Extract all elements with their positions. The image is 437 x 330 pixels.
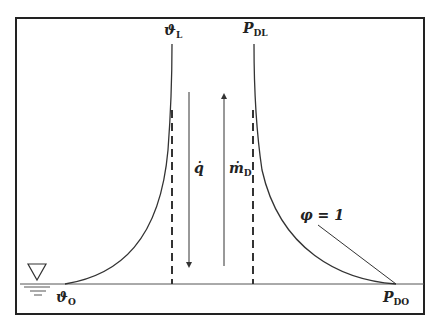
pressure-curve (254, 44, 396, 284)
label-P-DL: PDL (243, 20, 268, 38)
label-theta-L: ϑL (164, 22, 182, 40)
arrowhead-down (186, 262, 192, 268)
diagram-canvas (0, 0, 437, 330)
water-level-icon (28, 264, 46, 280)
phi-pointer (318, 225, 396, 284)
frame (16, 18, 424, 314)
label-m-dot-D: ṁD (229, 160, 252, 178)
arrowhead-up (221, 93, 227, 99)
label-q-dot: q̇ (194, 160, 204, 176)
temperature-curve (65, 44, 172, 284)
label-theta-O: ϑO (56, 289, 76, 307)
label-P-DO: PDO (383, 289, 409, 307)
label-phi: φ = 1 (300, 207, 344, 223)
